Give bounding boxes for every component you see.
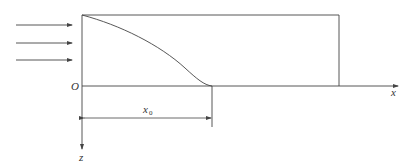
x0-subscript: 0 xyxy=(149,109,153,117)
x0-label: x xyxy=(142,103,148,115)
origin-label: O xyxy=(71,80,79,92)
profile-curve xyxy=(82,15,212,86)
diagram-canvas: O x z x 0 xyxy=(0,0,406,165)
incoming-flow-arrows xyxy=(16,25,72,60)
z-axis-label: z xyxy=(78,151,84,163)
rectangle-region xyxy=(82,15,339,86)
x-axis-label: x xyxy=(390,86,396,98)
